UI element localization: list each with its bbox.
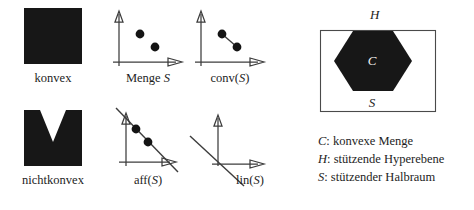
aff-s-axes-plot	[110, 106, 196, 174]
conv-s-plot-panel	[192, 8, 270, 70]
legend-separator-h: :	[327, 152, 334, 166]
legend-item-c: C: konvexe Menge	[318, 132, 444, 150]
hyperplane-label: H	[370, 8, 379, 21]
legend-separator-c: :	[326, 134, 333, 148]
legend-item-h: H: stützende Hyperebene	[318, 150, 444, 168]
legend-item-s: S: stützender Halbraum	[318, 168, 444, 186]
menge-s-caption-symbol: S	[164, 71, 170, 85]
convex-set-label: C	[368, 54, 377, 67]
data-point	[144, 138, 153, 147]
nonconvex-shape-panel	[24, 110, 82, 166]
convex-shape-panel	[24, 8, 82, 64]
conv-s-caption: conv(S)	[211, 72, 250, 85]
lin-s-plot-panel	[196, 106, 288, 182]
convex-square-icon	[24, 8, 82, 64]
convex-caption: konvex	[35, 72, 72, 85]
nonconvex-notched-square-icon	[24, 110, 82, 166]
hyperplane-label-text: H	[370, 7, 379, 22]
menge-s-caption: Menge S	[126, 72, 170, 85]
aff-s-caption: aff(S)	[134, 174, 162, 187]
conv-s-axes-plot	[192, 8, 270, 70]
halfspace-diagram	[320, 30, 436, 112]
lin-s-caption: lin(S)	[236, 174, 264, 187]
legend-text-s: stützender Halbraum	[331, 170, 435, 184]
menge-s-axes-plot	[110, 8, 188, 70]
convex-set-label-text: C	[368, 53, 377, 68]
legend-text-c: konvexe Menge	[333, 134, 413, 148]
convexity-figure: konvex Menge S conv(S)	[0, 0, 474, 210]
aff-s-caption-prefix: aff(	[134, 173, 152, 187]
nonconvex-caption: nichtkonvex	[22, 174, 84, 187]
halfspace-label: S	[369, 96, 376, 109]
data-point	[218, 30, 227, 39]
halfspace-label-text: S	[369, 95, 376, 110]
conv-s-caption-suffix: )	[245, 71, 249, 85]
legend-text-h: stützende Hyperebene	[334, 152, 445, 166]
data-point	[233, 43, 242, 52]
legend-symbol-h: H	[318, 152, 327, 166]
legend: C: konvexe Menge H: stützende Hyperebene…	[318, 132, 444, 186]
supporting-halfspace-panel	[320, 30, 436, 112]
data-point	[132, 125, 141, 134]
menge-s-plot-panel	[110, 8, 188, 70]
conv-s-caption-prefix: conv(	[211, 71, 239, 85]
data-point	[136, 30, 145, 39]
aff-s-plot-panel	[110, 106, 196, 174]
lin-s-caption-prefix: lin(	[236, 173, 253, 187]
lin-s-axes-plot	[196, 106, 288, 182]
legend-separator-s: :	[324, 170, 331, 184]
data-point	[151, 43, 160, 52]
menge-s-caption-prefix: Menge	[126, 71, 164, 85]
lin-s-caption-suffix: )	[260, 173, 264, 187]
aff-s-caption-suffix: )	[158, 173, 162, 187]
